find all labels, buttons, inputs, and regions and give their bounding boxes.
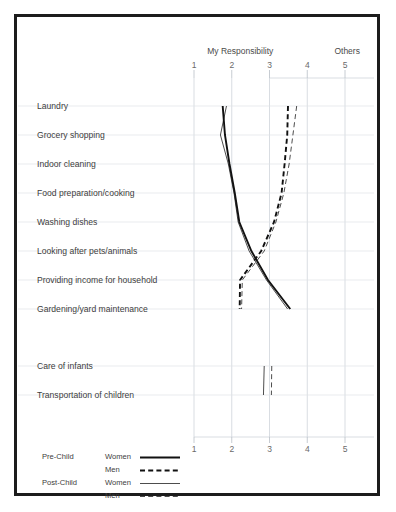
tick-label-top-4: 4 — [297, 60, 317, 70]
tick-label-bottom-4: 4 — [297, 444, 317, 454]
category-label-4: Washing dishes — [37, 217, 97, 227]
category-label-9: Transportation of children — [37, 390, 134, 400]
legend-entry-label-pre-child-men: Men — [105, 465, 120, 474]
category-label-5: Looking after pets/animals — [37, 246, 137, 256]
tick-label-top-5: 5 — [335, 60, 355, 70]
tick-label-top-2: 2 — [222, 60, 242, 70]
category-label-1: Grocery shopping — [37, 130, 105, 140]
tick-label-top-1: 1 — [184, 60, 204, 70]
series-line-post-child-women — [263, 366, 264, 395]
legend-group-label-0: Pre-Child — [42, 452, 74, 461]
legend-entry-label-post-child-women: Women — [105, 478, 131, 487]
axis-caption-others: Others — [334, 46, 360, 56]
axis-caption-my-responsibility: My Responsibility — [207, 46, 273, 56]
category-label-3: Food preparation/cooking — [37, 188, 134, 198]
legend-group-label-1: Post-Child — [42, 478, 77, 487]
tick-label-bottom-2: 2 — [222, 444, 242, 454]
category-label-2: Indoor cleaning — [37, 159, 96, 169]
tick-label-top-3: 3 — [260, 60, 280, 70]
legend-entry-label-post-child-men: Men — [105, 491, 120, 500]
category-label-8: Care of infants — [37, 361, 93, 371]
chart-canvas — [0, 0, 396, 512]
series-line-pre-child-men — [240, 106, 288, 309]
tick-label-bottom-3: 3 — [260, 444, 280, 454]
category-label-6: Providing income for household — [37, 275, 157, 285]
tick-label-bottom-5: 5 — [335, 444, 355, 454]
tick-label-bottom-1: 1 — [184, 444, 204, 454]
legend-entry-label-pre-child-women: Women — [105, 452, 131, 461]
category-label-0: Laundry — [37, 101, 68, 111]
category-label-7: Gardening/yard maintenance — [37, 304, 148, 314]
